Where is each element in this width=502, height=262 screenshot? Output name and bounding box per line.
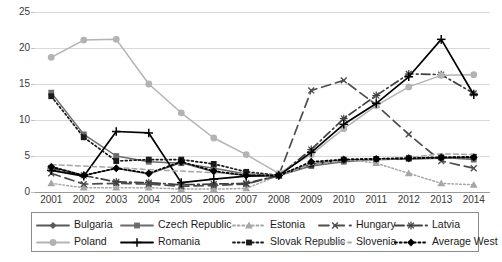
legend-marker-icon [232,235,266,248]
legend-swatch-icon [36,219,70,232]
legend-marker-icon [120,218,154,231]
series-line [48,36,477,177]
legend-swatch-icon [36,236,70,249]
x-tick-label: 2005 [170,194,192,205]
legend-swatch-icon [318,219,352,232]
x-tick-label: 2001 [40,194,62,205]
chart-legend: BulgariaCzech RepublicEstoniaHungaryLatv… [31,212,479,252]
legend-label: Romania [158,235,200,248]
legend-swatch-icon [318,236,352,249]
x-tick-label: 2010 [333,194,355,205]
legend-swatch-icon [232,236,266,249]
x-axis: 2001200220032004200520062007200820092010… [35,194,490,210]
legend-label: Latvia [432,218,460,231]
x-tick-label: 2007 [235,194,257,205]
legend-label: Poland [74,235,107,248]
x-tick-label: 2009 [300,194,322,205]
legend-label: Estonia [270,218,305,231]
plot-area [35,12,490,192]
x-tick-label: 2012 [398,194,420,205]
x-tick-label: 2004 [138,194,160,205]
x-tick-label: 2003 [105,194,127,205]
legend-marker-icon [36,218,70,231]
legend-marker-icon [120,235,154,248]
series-line [48,78,476,190]
legend-row: BulgariaCzech RepublicEstoniaHungaryLatv… [36,216,474,233]
y-tick-label: 5 [4,150,30,161]
y-tick-label: 0 [4,186,30,197]
legend-row: PolandRomaniaSlovak RepublicSloveniaAver… [36,233,474,250]
y-tick-label: 10 [4,114,30,125]
series-layer [35,12,490,192]
legend-marker-icon [318,218,352,231]
legend-item-hungary[interactable]: Hungary [318,216,396,233]
legend-label: Bulgaria [74,218,113,231]
legend-item-romania[interactable]: Romania [120,233,200,250]
x-tick-label: 2011 [365,194,387,205]
x-tick-label: 2008 [268,194,290,205]
legend-swatch-icon [120,219,154,232]
legend-swatch-icon [394,219,428,232]
chart-container: 0510152025 20012002200320042005200620072… [0,0,502,262]
legend-marker-icon [318,235,352,248]
legend-item-czech-republic[interactable]: Czech Republic [120,216,232,233]
legend-item-bulgaria[interactable]: Bulgaria [36,216,113,233]
legend-swatch-icon [120,236,154,249]
legend-label: Slovenia [356,235,396,248]
legend-item-average-west[interactable]: Average West [394,233,498,250]
legend-swatch-icon [232,219,266,232]
legend-item-estonia[interactable]: Estonia [232,216,305,233]
series-line [47,70,477,189]
y-tick-label: 15 [4,78,30,89]
legend-item-latvia[interactable]: Latvia [394,216,460,233]
x-axis-line [35,192,490,193]
series-line [48,90,476,179]
legend-label: Hungary [356,218,396,231]
legend-item-poland[interactable]: Poland [36,233,107,250]
y-tick-label: 20 [4,42,30,53]
x-tick-label: 2006 [203,194,225,205]
legend-marker-icon [394,218,428,231]
legend-marker-icon [36,235,70,248]
legend-swatch-icon [394,236,428,249]
legend-marker-icon [232,218,266,231]
legend-item-slovenia[interactable]: Slovenia [318,233,396,250]
legend-marker-icon [394,235,428,248]
x-tick-label: 2013 [430,194,452,205]
legend-label: Average West [432,235,498,248]
legend-label: Czech Republic [158,218,232,231]
x-tick-label: 2002 [73,194,95,205]
x-tick-label: 2014 [463,194,485,205]
y-tick-label: 25 [4,6,30,17]
